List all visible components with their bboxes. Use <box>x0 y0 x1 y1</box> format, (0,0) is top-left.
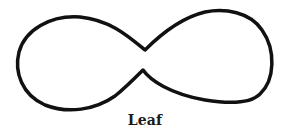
center-gap <box>139 52 149 68</box>
figure-caption: Leaf <box>0 112 290 128</box>
leaf-figure: Leaf <box>0 0 290 135</box>
